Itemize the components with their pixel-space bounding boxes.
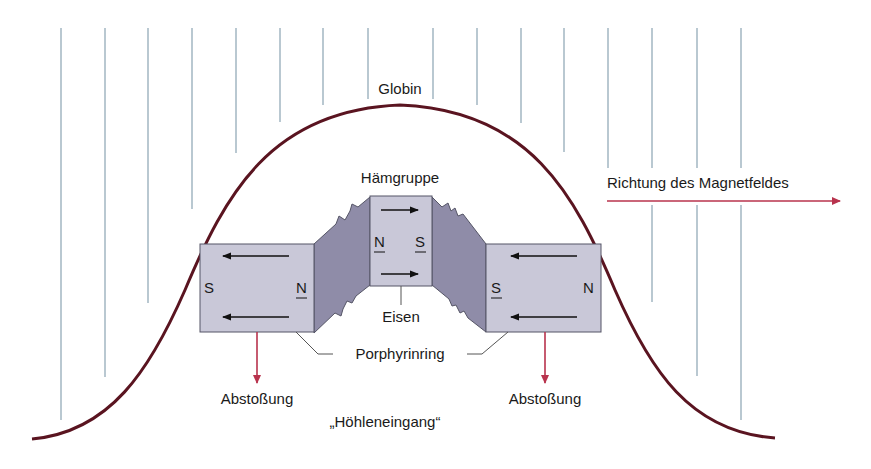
pole-n-left: N <box>296 279 307 296</box>
pole-n-right: N <box>583 279 594 296</box>
label-field-direction: Richtung des Magnetfeldes <box>607 174 789 191</box>
magnet-right: S N <box>486 244 601 332</box>
label-repulsion-right: Abstoßung <box>509 390 582 407</box>
porphyrin-leader-left <box>296 332 333 354</box>
label-globin: Globin <box>378 80 421 97</box>
porphyrin-connector-left <box>314 197 370 333</box>
label-repulsion-left: Abstoßung <box>221 390 294 407</box>
pole-s-center: S <box>415 233 425 250</box>
porphyrin-connector-right <box>432 197 486 332</box>
heme-magnet-diagram: S N N S S N Globin Hämgruppe Richtung de… <box>0 0 871 469</box>
label-porphyrin-ring: Porphyrinring <box>355 345 444 362</box>
porphyrin-leader-right <box>467 332 508 354</box>
label-cave-entrance: „Höhleneingang“ <box>330 413 441 430</box>
magnet-left: S N <box>200 244 314 332</box>
label-iron: Eisen <box>382 308 420 325</box>
magnet-center: N S <box>370 196 432 286</box>
pole-s-left: S <box>204 279 214 296</box>
pole-s-right: S <box>491 279 501 296</box>
label-heme-group: Hämgruppe <box>361 169 439 186</box>
pole-n-center: N <box>374 233 385 250</box>
